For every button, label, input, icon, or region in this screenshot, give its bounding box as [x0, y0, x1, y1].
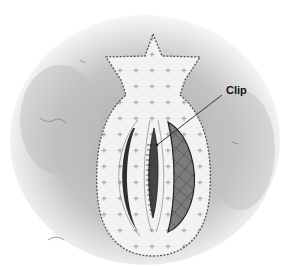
clip-label: Clip	[226, 84, 247, 96]
illustration: Clip	[0, 0, 282, 266]
pomegranate-diagram	[0, 0, 282, 266]
